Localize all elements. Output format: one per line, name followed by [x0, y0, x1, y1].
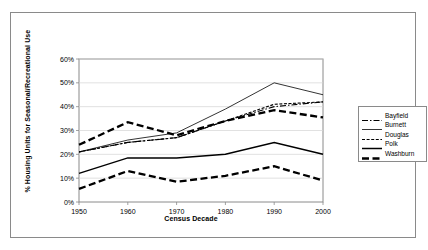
y-axis-ticks: 0%10%20%30%40%50%60%: [60, 56, 79, 206]
x-axis-ticks: 195019601970198019902000: [71, 202, 331, 215]
legend-item-burnett[interactable]: Burnett: [361, 120, 424, 129]
legend-item-douglas[interactable]: Douglas: [361, 130, 424, 139]
x-tick-label: 1950: [71, 208, 87, 215]
x-tick-label: 1980: [218, 208, 234, 215]
chart-legend: BayfieldBurnettDouglasPolkWashburn: [358, 106, 427, 162]
legend-label: Burnett: [385, 120, 406, 129]
legend-line-swatch: [361, 130, 383, 139]
chart-figure: 0%10%20%30%40%50%60% 1950196019701980199…: [10, 12, 416, 238]
legend-item-bayfield[interactable]: Bayfield: [361, 111, 424, 120]
legend-label: Polk: [385, 139, 398, 148]
y-tick-label: 0%: [64, 199, 74, 206]
y-tick-label: 30%: [60, 127, 74, 134]
legend-label: Bayfield: [385, 111, 408, 120]
legend-line-swatch: [361, 120, 383, 129]
legend-label: Douglas: [385, 130, 409, 139]
y-tick-label: 10%: [60, 175, 74, 182]
x-tick-label: 2000: [315, 208, 331, 215]
y-tick-label: 40%: [60, 103, 74, 110]
chart-plot-area: 0%10%20%30%40%50%60% 1950196019701980199…: [11, 13, 415, 237]
x-tick-label: 1970: [169, 208, 185, 215]
y-axis-title: % Housing Units for Seasonal/Recreationa…: [24, 33, 31, 193]
y-tick-label: 50%: [60, 79, 74, 86]
line-chart-svg: 0%10%20%30%40%50%60% 1950196019701980199…: [11, 13, 417, 239]
legend-line-swatch: [361, 149, 383, 158]
x-tick-label: 1960: [120, 208, 136, 215]
y-tick-label: 20%: [60, 151, 74, 158]
legend-line-swatch: [361, 139, 383, 148]
x-axis-title: Census Decade: [71, 215, 311, 222]
legend-item-washburn[interactable]: Washburn: [361, 149, 424, 158]
x-tick-label: 1990: [266, 208, 282, 215]
legend-item-polk[interactable]: Polk: [361, 139, 424, 148]
legend-line-swatch: [361, 111, 383, 120]
legend-label: Washburn: [385, 149, 414, 158]
y-tick-label: 60%: [60, 56, 74, 63]
